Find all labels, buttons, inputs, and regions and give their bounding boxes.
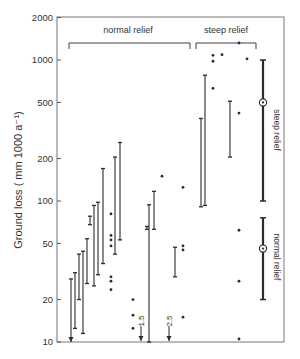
y-tick-label: 50: [42, 238, 53, 249]
range-bar: [88, 216, 92, 224]
range-bar: [96, 202, 100, 274]
summary-bar: [259, 60, 266, 201]
data-point: [212, 60, 215, 63]
data-point: [238, 229, 241, 232]
data-point: [132, 327, 135, 330]
range-bar: [85, 239, 89, 284]
range-bars: [69, 75, 233, 342]
data-point: [212, 54, 215, 57]
range-bar: [92, 205, 96, 285]
ground-loss-chart: 10205010020050010002000 Ground loss ( mm…: [0, 0, 300, 359]
data-point: [132, 298, 135, 301]
value-arrows: 1.52.5: [137, 315, 174, 341]
range-bar: [73, 273, 77, 329]
arrow-down-icon: [167, 336, 172, 341]
y-tick-label: 500: [37, 97, 53, 108]
group-label-steep: steep relief: [204, 25, 249, 35]
data-point: [161, 175, 164, 178]
side-label-normal: normal relief: [272, 234, 282, 281]
mean-marker-dot: [262, 247, 264, 249]
data-point: [182, 245, 185, 248]
summary-bars: [259, 60, 266, 300]
value-arrow: 1.5: [137, 315, 146, 341]
data-point: [238, 112, 241, 115]
data-point: [238, 280, 241, 283]
range-bar: [203, 75, 207, 205]
data-point: [110, 280, 113, 283]
range-bar: [113, 157, 117, 254]
side-label-steep: steep relief: [272, 109, 282, 151]
range-bar: [152, 191, 156, 229]
arrow-down-icon: [69, 337, 74, 342]
data-point: [110, 238, 113, 241]
data-point: [221, 53, 224, 56]
data-point: [110, 288, 113, 291]
summary-bar: [259, 218, 266, 300]
data-point: [246, 57, 249, 60]
mean-marker-dot: [262, 101, 264, 103]
data-point: [182, 186, 185, 189]
data-point: [110, 275, 113, 278]
data-point: [238, 338, 241, 341]
range-bar: [145, 226, 149, 229]
data-point: [182, 248, 185, 251]
range-bar: [118, 142, 122, 239]
y-tick-label: 200: [37, 153, 53, 164]
range-bar: [77, 254, 81, 299]
range-bar: [199, 118, 203, 206]
y-tick-label: 1000: [32, 54, 53, 65]
group-label-normal: normal relief: [103, 25, 153, 35]
arrow-value-label: 2.5: [165, 315, 174, 327]
range-bar: [173, 247, 177, 277]
range-bar: [101, 169, 105, 264]
plot-frame: [57, 17, 284, 342]
range-bar: [69, 279, 74, 342]
range-bar: [81, 251, 85, 333]
data-point: [132, 314, 135, 317]
data-point: [110, 234, 113, 237]
value-arrow: 2.5: [165, 315, 174, 341]
y-tick-label: 20: [42, 294, 53, 305]
y-tick-label: 10: [42, 336, 53, 347]
y-tick-label: 100: [37, 195, 53, 206]
data-point: [110, 213, 113, 216]
data-point: [182, 316, 185, 319]
arrow-value-label: 1.5: [137, 315, 146, 327]
range-bar: [228, 101, 232, 157]
arrow-down-icon: [139, 336, 144, 341]
group-bracket-steep: [196, 43, 256, 49]
y-tick-label: 2000: [32, 12, 53, 23]
data-point: [238, 42, 241, 45]
data-point: [110, 245, 113, 248]
range-bar: [147, 205, 151, 342]
group-bracket-normal: [69, 43, 190, 49]
data-points: [110, 42, 249, 341]
y-axis-label: Ground loss ( mm 1000 a⁻¹): [12, 111, 24, 248]
data-point: [212, 87, 215, 90]
